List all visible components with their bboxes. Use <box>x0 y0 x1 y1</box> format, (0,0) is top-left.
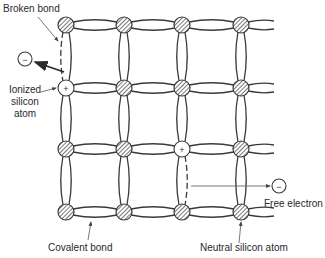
covalent-bond-label: Covalent bond <box>48 242 113 253</box>
neutral-silicon-atom <box>233 80 249 96</box>
covalent-bond-line <box>189 207 234 209</box>
neutral-silicon-atom <box>116 204 132 220</box>
covalent-bond-line <box>244 156 246 205</box>
broken-bond-line <box>61 32 63 81</box>
neutral-silicon-atom <box>58 17 74 33</box>
ionized-silicon-atom: + <box>58 80 74 96</box>
ionized-silicon-atom: + <box>174 141 190 157</box>
covalent-bond-line <box>189 83 234 85</box>
neutral-silicon-atom <box>58 141 74 157</box>
covalent-bond-line <box>73 152 117 154</box>
neutral-silicon-atom <box>233 204 249 220</box>
covalent-bond-line <box>185 32 187 81</box>
neutral-atom-leader <box>239 222 241 243</box>
covalent-bond-line <box>131 28 175 30</box>
covalent-bond-line <box>248 144 274 146</box>
covalent-bond-line <box>73 207 117 209</box>
hatched-atom-icon <box>116 141 132 157</box>
hatched-atom-icon <box>116 17 132 33</box>
covalent-bond-line <box>131 144 175 146</box>
covalent-bond-line <box>248 83 274 85</box>
minus-sign: − <box>22 55 27 65</box>
hatched-atom-icon <box>116 204 132 220</box>
covalent-bond-line <box>185 95 187 142</box>
hatched-atom-icon <box>174 80 190 96</box>
covalent-bond-line <box>127 156 129 205</box>
covalent-bond-line <box>248 215 274 217</box>
covalent-bond-line <box>248 20 274 22</box>
broken-bond-label: Broken bond <box>3 3 60 14</box>
covalent-bond-line <box>244 32 246 81</box>
covalent-bond-line <box>119 95 121 142</box>
neutral-silicon-atom <box>233 17 249 33</box>
covalent-bond-line <box>131 215 175 217</box>
covalent-bond-line <box>189 91 234 93</box>
covalent-bond-line <box>236 32 238 81</box>
covalent-bond-line <box>127 32 129 81</box>
covalent-bond-line <box>69 32 71 81</box>
covalent-bond-line <box>73 215 117 217</box>
covalent-bond-line <box>119 156 121 205</box>
hatched-atom-icon <box>233 204 249 220</box>
covalent-bond-line <box>189 28 234 30</box>
covalent-bond-line <box>73 20 117 22</box>
broken-bond-line <box>185 156 187 205</box>
covalent-bond-line <box>177 95 179 142</box>
neutral-silicon-atom <box>174 17 190 33</box>
covalent-bond-line <box>131 152 175 154</box>
covalent-bond-line <box>189 20 234 22</box>
covalent-bond-line <box>248 91 274 93</box>
free-electron: − <box>272 179 286 193</box>
covalent-bond-line <box>189 144 234 146</box>
neutral-silicon-atom <box>116 141 132 157</box>
hatched-atom-icon <box>233 17 249 33</box>
hatched-atom-icon <box>116 80 132 96</box>
neutral-silicon-atom <box>116 17 132 33</box>
covalent-bond-line <box>236 156 238 205</box>
covalent-bond-line <box>189 152 234 154</box>
hatched-atom-icon <box>174 204 190 220</box>
ionized-label-line1: Ionized <box>9 84 41 95</box>
neutral-silicon-atom <box>174 204 190 220</box>
neutral-silicon-atom <box>116 80 132 96</box>
ionized-atom-leader <box>41 88 56 92</box>
covalent-bond-line <box>119 32 121 81</box>
hatched-atom-icon <box>58 204 74 220</box>
covalent-bond-line <box>236 95 238 142</box>
covalent-bond-line <box>177 156 179 205</box>
atoms-layer: ++ <box>58 17 249 220</box>
covalent-bond-line <box>73 83 117 85</box>
covalent-bond-line <box>248 152 274 154</box>
minus-sign: − <box>276 182 281 192</box>
covalent-bond-line <box>73 144 117 146</box>
covalent-bond-line <box>189 215 234 217</box>
covalent-bond-line <box>61 95 63 142</box>
neutral-silicon-atom <box>174 80 190 96</box>
ionized-label-line3: atom <box>14 108 36 119</box>
covalent-bond-line <box>127 95 129 142</box>
neutral-silicon-atom <box>233 141 249 157</box>
covalent-bond-line <box>69 95 71 142</box>
covalent-bond-line <box>131 83 175 85</box>
covalent-bond-leader <box>88 222 91 240</box>
hatched-atom-icon <box>174 17 190 33</box>
covalent-bond-line <box>73 91 117 93</box>
hatched-atom-icon <box>58 141 74 157</box>
neutral-atom-label: Neutral silicon atom <box>200 242 288 253</box>
ionized-label-line2: silicon <box>11 96 39 107</box>
covalent-bond-line <box>177 32 179 81</box>
broken-bond-leader <box>38 17 58 41</box>
neutral-silicon-atom <box>58 204 74 220</box>
electron-escape-arrow <box>35 62 64 72</box>
free-electron-label: Free electron <box>264 198 323 209</box>
hatched-atom-icon <box>233 80 249 96</box>
plus-sign: + <box>179 145 184 155</box>
covalent-bond-line <box>248 28 274 30</box>
hatched-atom-icon <box>233 141 249 157</box>
covalent-bond-line <box>73 28 117 30</box>
plus-sign: + <box>63 84 68 94</box>
covalent-bond-line <box>131 20 175 22</box>
covalent-bond-line <box>69 156 71 205</box>
covalent-bond-line <box>131 207 175 209</box>
electron-left: − <box>18 52 32 66</box>
